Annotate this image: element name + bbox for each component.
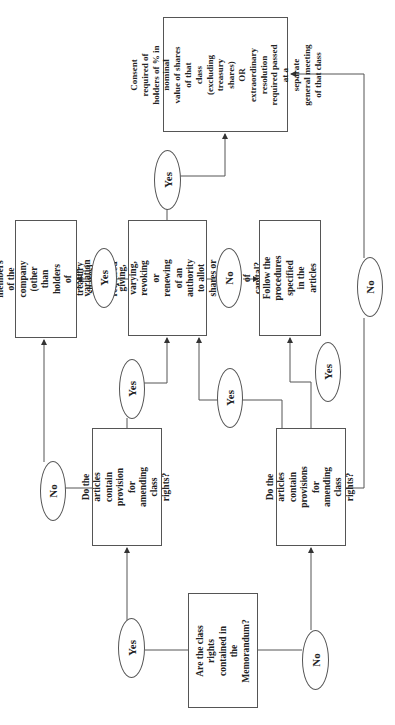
node-articles-provision-a: Do the articles contain provision for am… <box>92 428 162 546</box>
node-memorandum-question-text: Are the class rights contained in the Me… <box>195 619 252 682</box>
connector-variation-yes-class-route <box>180 134 225 176</box>
node-memorandum-question: Are the class rights contained in the Me… <box>188 593 258 708</box>
label-articles-b-yes-procedures-text: Yes <box>322 364 334 380</box>
label-articles-a-yes-text: Yes <box>126 381 138 397</box>
label-memo-no: No <box>302 630 329 690</box>
label-memo-yes-text: Yes <box>126 640 138 656</box>
label-articles-a-yes: Yes <box>119 359 145 419</box>
label-articles-b-yes-procedures: Yes <box>315 342 341 402</box>
node-follow-procedures-text: Follow the procedures specified in the a… <box>262 255 319 300</box>
node-follow-procedures: Follow the procedures specified in the a… <box>259 220 321 336</box>
label-articles-b-yes-variation-text: Yes <box>224 390 236 406</box>
label-variation-no-text: No <box>223 271 235 284</box>
connector-articles-b-yes-procedures <box>290 338 311 428</box>
label-articles-b-no: No <box>357 257 383 317</box>
label-variation-no: No <box>216 248 242 308</box>
connector-articles-a-yes-route <box>144 338 167 383</box>
label-variation-yes-all-text: Yes <box>98 270 110 286</box>
label-articles-b-no-text: No <box>364 280 376 293</box>
label-variation-yes-class-text: Yes <box>162 172 174 188</box>
label-variation-yes-class: Yes <box>154 150 181 210</box>
node-articles-provision-b: Do the articles contain provisions for a… <box>276 428 346 546</box>
node-consent-all-members: Consent of all members of the company (o… <box>15 220 77 338</box>
node-articles-provision-a-text: Do the articles contain provision for am… <box>81 467 172 507</box>
label-articles-b-yes-variation: Yes <box>217 368 243 428</box>
label-memo-yes: Yes <box>118 618 145 678</box>
node-articles-provision-b-text: Do the articles contain provisions for a… <box>265 466 356 508</box>
connector-articles-b-no <box>346 318 364 488</box>
connector-articles-b-yes-variation-route <box>199 338 219 400</box>
node-variation-question: Is the variation connected to the giving… <box>128 220 207 336</box>
label-articles-a-no-text: No <box>47 484 59 497</box>
flowchart: Are the class rights contained in the Me… <box>0 0 395 725</box>
label-variation-yes-all: Yes <box>91 248 117 308</box>
label-articles-a-no: No <box>40 461 66 521</box>
connector-articles-b-yes-variation <box>242 400 282 428</box>
node-consent-class-holders-text: Consent required of holders of % in nomi… <box>128 44 322 106</box>
label-memo-no-text: No <box>310 653 322 666</box>
node-consent-class-holders: Consent required of holders of % in nomi… <box>163 17 288 132</box>
